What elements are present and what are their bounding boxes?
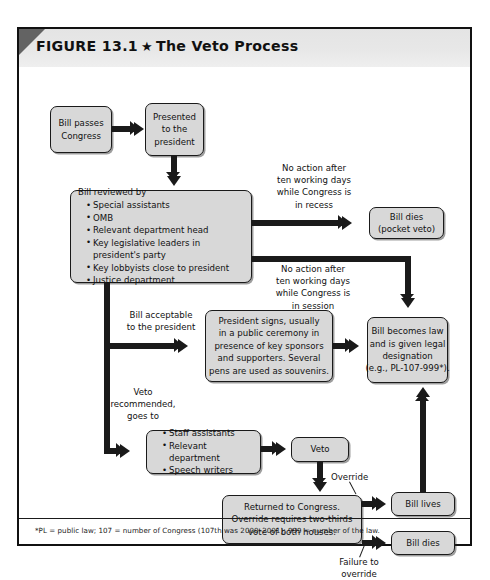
node-line: Presented — [153, 111, 196, 123]
arrowhead-returned-to-bill-dies — [376, 536, 386, 550]
edge-reviewed-to-pocket-veto — [252, 220, 342, 226]
node-bill-reviewed-by: Bill reviewed by Special assistants OMB … — [70, 190, 252, 283]
figure-title-text: The Veto Process — [156, 38, 299, 54]
node-line: Returned to Congress. — [244, 501, 340, 513]
edge-label-override: Override — [331, 471, 397, 483]
figure-title: FIGURE 13.1★The Veto Process — [36, 38, 298, 54]
edge-session-horizontal — [252, 256, 411, 262]
reviewed-list: Special assistants OMB Relevant departme… — [78, 199, 244, 286]
edge-session-vertical — [405, 256, 411, 298]
arrowhead-veto-to-returned — [313, 482, 327, 492]
node-bill-dies-pocket-veto: Bill dies (pocket veto) — [369, 207, 444, 239]
node-line: Veto — [310, 443, 329, 455]
node-line: in a public ceremony in — [219, 327, 320, 339]
node-line: Override requires two-thirds — [231, 513, 352, 525]
list-item: Key legislative leaders in president's p… — [86, 237, 244, 262]
list-item: Speech writers — [162, 464, 253, 476]
node-bill-becomes-law: Bill becomes law and is given legal desi… — [367, 317, 448, 383]
edge-label-failure: Failure to override — [319, 556, 399, 580]
node-line: (e.g., PL-107-999*). — [365, 362, 449, 374]
figure-footnote: *PL = public law; 107 = number of Congre… — [35, 526, 380, 535]
figure-header-band: FIGURE 13.1★The Veto Process — [19, 29, 470, 67]
node-line: and is given legal — [370, 338, 446, 350]
staff-list: Staff assistants Relevant department Spe… — [154, 427, 253, 477]
node-line: (pocket veto) — [378, 223, 435, 235]
list-item: OMB — [86, 212, 244, 224]
arrowhead-veto-recommended-to-staff — [120, 444, 130, 458]
node-line: presence of key sponsors — [214, 340, 323, 352]
node-line: Bill lives — [405, 498, 440, 510]
arrowhead-acceptable-to-signs — [178, 339, 188, 353]
node-line: president — [154, 136, 195, 148]
node-line: to the — [162, 123, 187, 135]
edge-acceptable-horizontal — [104, 343, 178, 349]
edge-label-veto-recommended: Veto recommended, goes to — [94, 386, 192, 423]
figure-root: FIGURE 13.1★The Veto Process Bill passes… — [0, 0, 490, 580]
list-item: Key lobbyists close to president — [86, 262, 244, 274]
node-line: Bill passes — [58, 117, 103, 129]
arrowhead-session-to-becomes-law — [401, 298, 415, 308]
arrowhead-staff-to-veto — [276, 442, 286, 456]
edge-label-session: No action after ten working days while C… — [257, 263, 369, 312]
node-president-signs: President signs, usually in a public cer… — [205, 310, 333, 382]
footnote-divider — [19, 518, 470, 519]
arrowhead-returned-to-bill-lives — [376, 497, 386, 511]
node-line: President signs, usually — [218, 315, 319, 327]
node-returned-to-congress: Returned to Congress. Override requires … — [222, 495, 362, 544]
edge-label-recess: No action after ten working days while C… — [259, 162, 369, 211]
arrowhead-reviewed-to-pocket-veto — [342, 216, 352, 230]
node-bill-dies: Bill dies — [391, 531, 455, 555]
node-line: pens are used as souvenirs. — [209, 365, 329, 377]
node-line: Bill dies — [406, 537, 439, 549]
diagram-canvas: Bill passes Congress Presented to the pr… — [19, 67, 470, 544]
figure-frame: FIGURE 13.1★The Veto Process Bill passes… — [17, 27, 472, 546]
edge-reviewed-trunk — [104, 283, 110, 448]
list-item: Relevant department — [162, 440, 253, 465]
list-item: Relevant department head — [86, 224, 244, 236]
node-line: and supporters. Several — [218, 352, 321, 364]
node-line: designation — [382, 350, 432, 362]
node-presented-to-president: Presented to the president — [145, 103, 204, 156]
node-veto: Veto — [291, 437, 349, 462]
node-bill-passes-congress: Bill passes Congress — [50, 106, 112, 153]
node-heading: Bill reviewed by — [78, 186, 244, 198]
node-staff-assistants: Staff assistants Relevant department Spe… — [146, 430, 261, 474]
node-bill-lives: Bill lives — [391, 492, 455, 516]
star-icon: ★ — [138, 39, 156, 54]
leader-line-override — [349, 481, 357, 494]
arrowhead-bill-lives-to-becomes-law — [416, 387, 430, 397]
arrowhead-passes-to-presented — [134, 122, 144, 136]
list-item: Staff assistants — [162, 427, 253, 439]
edge-label-acceptable: Bill acceptable to the president — [111, 309, 211, 333]
arrowhead-signs-to-becomes-law — [349, 339, 359, 353]
list-item: Special assistants — [86, 199, 244, 211]
node-line: Bill dies — [390, 211, 423, 223]
node-line: Congress — [61, 130, 101, 142]
arrowhead-presented-to-reviewed — [167, 176, 181, 186]
edge-bill-lives-to-becomes-law — [420, 397, 426, 492]
node-line: Bill becomes law — [371, 325, 443, 337]
figure-number: FIGURE 13.1 — [36, 38, 138, 54]
